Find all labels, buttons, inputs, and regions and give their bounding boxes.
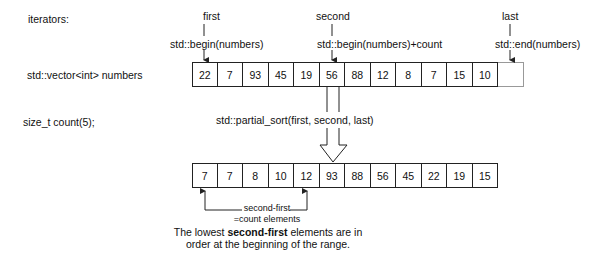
transform-arrow-icon bbox=[320, 87, 347, 162]
span-label-1: second-first bbox=[236, 203, 298, 213]
span-label-2: =count elements bbox=[230, 214, 304, 224]
caption: The lowest second-first elements are in … bbox=[168, 226, 368, 250]
